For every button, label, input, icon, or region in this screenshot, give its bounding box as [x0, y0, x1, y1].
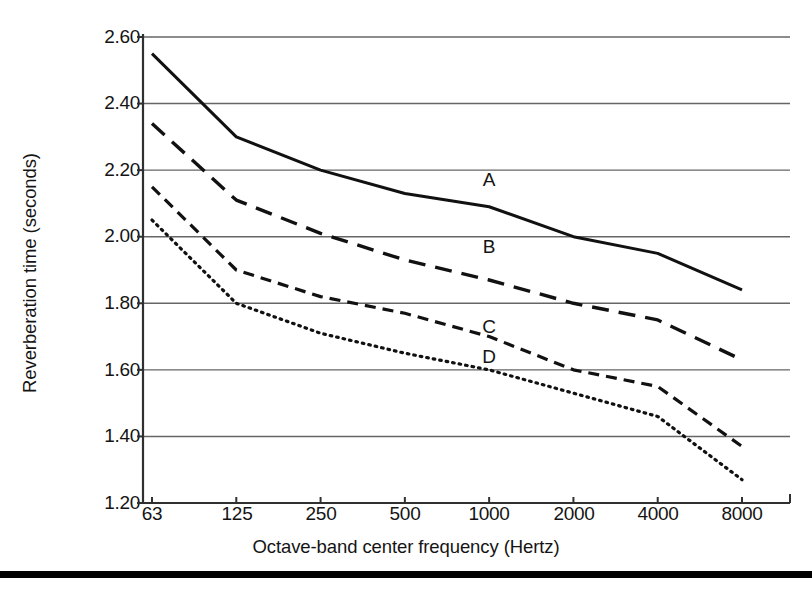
- series-label-b: B: [483, 236, 496, 258]
- x-axis-ticks: [152, 494, 790, 503]
- footer-divider-rule: [0, 571, 812, 578]
- data-curves: [152, 54, 742, 480]
- series-line-c: [152, 187, 742, 447]
- series-line-b: [152, 124, 742, 360]
- series-label-c: C: [482, 316, 496, 338]
- reverberation-time-chart-figure: Reverberation time (seconds) 2.60 2.40 2…: [0, 0, 812, 592]
- series-line-a: [152, 54, 742, 290]
- series-label-a: A: [483, 169, 496, 191]
- plot-area: [0, 0, 812, 592]
- series-label-d: D: [482, 346, 496, 368]
- x-axis-title: Octave-band center frequency (Hertz): [0, 536, 812, 558]
- series-line-d: [152, 220, 742, 480]
